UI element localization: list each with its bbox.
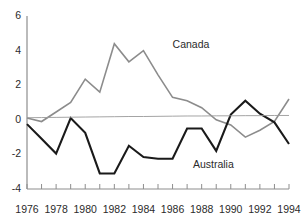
x-tick-label: 1984 bbox=[128, 203, 158, 215]
x-tick-label: 1976 bbox=[12, 203, 42, 215]
line-chart: 6420-2-4 1976197819801982198419861988199… bbox=[0, 0, 306, 224]
y-tick-label: 2 bbox=[5, 78, 21, 90]
plot-area bbox=[0, 0, 306, 224]
series-label-canada: Canada bbox=[173, 38, 210, 50]
series-label-australia: Australia bbox=[193, 158, 234, 170]
x-tick-label: 1980 bbox=[70, 203, 100, 215]
x-tick-label: 1978 bbox=[41, 203, 71, 215]
series-line-canada bbox=[27, 44, 289, 137]
y-tick-label: -2 bbox=[5, 147, 21, 159]
x-tick-label: 1992 bbox=[245, 203, 275, 215]
x-tick-label: 1988 bbox=[187, 203, 217, 215]
x-tick-label: 1986 bbox=[158, 203, 188, 215]
x-tick-label: 1994 bbox=[274, 203, 304, 215]
y-tick-label: 4 bbox=[5, 44, 21, 56]
series-line-australia bbox=[27, 101, 289, 174]
y-tick-label: -4 bbox=[5, 182, 21, 194]
y-tick-label: 6 bbox=[5, 9, 21, 21]
x-tick-label: 1990 bbox=[216, 203, 246, 215]
series-layer bbox=[27, 44, 289, 174]
x-tick-label: 1982 bbox=[99, 203, 129, 215]
y-tick-label: 0 bbox=[5, 113, 21, 125]
x-axis-ticks bbox=[27, 184, 289, 189]
series-line-zero-reference bbox=[27, 115, 289, 117]
